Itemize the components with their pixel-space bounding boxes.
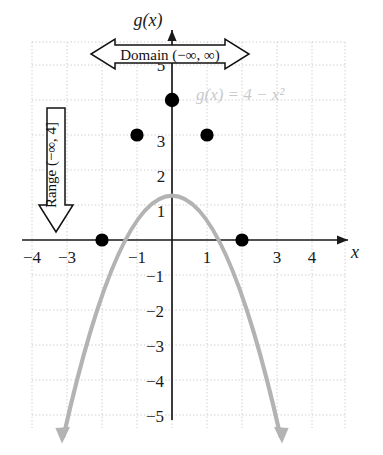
y-tick-label: −2 [146,302,164,321]
x-axis-label: x [350,242,359,262]
y-tick-label: −1 [146,267,164,286]
point-right [200,128,213,141]
point-x-intercept-right [235,233,248,246]
point-vertex [165,93,179,107]
y-tick-label: −3 [146,337,164,356]
y-axis-label: g(x) [134,10,163,31]
graph-figure: x g(x) −4 −3 −1 1 3 4 5 3 2 1 −1 −2 −3 −… [0,0,383,455]
x-tick-label: −3 [58,248,76,267]
y-tick-label: −5 [146,407,164,426]
point-x-intercept-left [95,233,108,246]
y-tick-label: 2 [157,167,166,186]
y-tick-label: 3 [157,132,166,151]
x-tick-label: 3 [273,248,282,267]
range-annotation-text: Range (−∞, 4] [43,122,60,208]
x-tick-label: 4 [308,248,317,267]
x-tick-label: −4 [23,248,42,267]
x-tick-label: 1 [203,248,212,267]
domain-annotation-text: Domain (−∞, ∞) [120,47,219,64]
x-tick-label: −1 [128,248,146,267]
equation-label: g(x) = 4 − x² [196,85,285,104]
y-tick-label: −4 [146,372,165,391]
y-tick-label: 1 [157,202,166,221]
point-left [130,128,143,141]
